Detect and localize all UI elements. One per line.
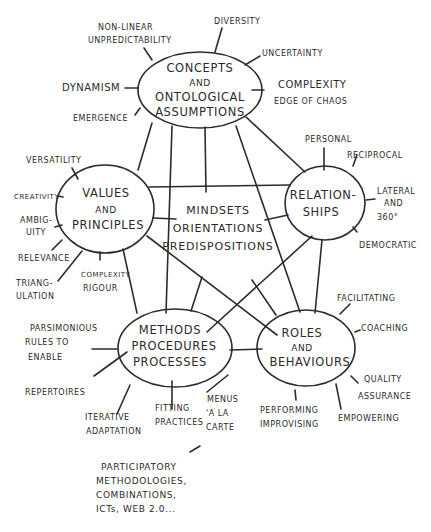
svg-text:ITERATIVE: ITERATIVE — [85, 413, 130, 422]
node-relationships: RELATION- SHIPS PERSONAL RECIPROCAL LATE… — [290, 135, 417, 250]
svg-text:QUALITY: QUALITY — [364, 375, 402, 384]
svg-text:360°: 360° — [377, 213, 398, 222]
svg-text:AND: AND — [291, 343, 313, 353]
svg-text:COMPLEXITY: COMPLEXITY — [278, 79, 347, 90]
edge-relationships-roles — [315, 240, 322, 313]
svg-text:DIVERSITY: DIVERSITY — [214, 17, 260, 26]
svg-text:PERSONAL: PERSONAL — [305, 135, 352, 144]
svg-text:COMBINATIONS,: COMBINATIONS, — [96, 490, 177, 500]
svg-text:MENUS: MENUS — [207, 395, 238, 404]
svg-text:AND: AND — [95, 205, 117, 215]
svg-text:PERFORMING: PERFORMING — [260, 406, 318, 415]
svg-text:COMPLEXITY: COMPLEXITY — [81, 271, 131, 279]
svg-text:VERSATILITY: VERSATILITY — [26, 156, 82, 165]
node-values: VALUES AND PRINCIPLES VERSATILITY CREATI… — [14, 156, 144, 301]
center-label: MINDSETS ORIENTATIONS PREDISPOSITIONS — [162, 204, 273, 253]
svg-text:ENABLE: ENABLE — [28, 353, 63, 362]
svg-text:RULES TO: RULES TO — [25, 338, 69, 347]
participatory-note: PARTICIPATORY METHODOLOGIES, COMBINATION… — [96, 462, 187, 514]
svg-text:FITTING: FITTING — [155, 404, 190, 413]
svg-text:COACHING: COACHING — [361, 324, 408, 333]
edge-center-methods — [191, 277, 202, 311]
svg-text:ONTOLOGICAL: ONTOLOGICAL — [155, 90, 245, 104]
relationships-bubble — [285, 166, 365, 240]
svg-text:PRACTICES: PRACTICES — [155, 418, 203, 427]
svg-text:REPERTOIRES: REPERTOIRES — [25, 388, 85, 397]
svg-text:EDGE OF CHAOS: EDGE OF CHAOS — [274, 97, 347, 106]
svg-text:UNPREDICTABILITY: UNPREDICTABILITY — [88, 36, 172, 45]
svg-text:AND: AND — [384, 199, 403, 208]
svg-text:PARSIMONIOUS: PARSIMONIOUS — [30, 324, 98, 333]
svg-text:UITY: UITY — [26, 228, 46, 237]
svg-text:ICTs, WEB 2.0...: ICTs, WEB 2.0... — [96, 504, 175, 514]
svg-text:AND: AND — [189, 78, 211, 88]
svg-text:ASSURANCE: ASSURANCE — [358, 392, 411, 401]
svg-text:TRIANG-: TRIANG- — [15, 279, 53, 288]
svg-text:FACILITATING: FACILITATING — [337, 294, 396, 303]
edge-values-methods — [123, 249, 137, 313]
svg-text:PROCESSES: PROCESSES — [133, 355, 207, 369]
svg-text:CREATIVITY: CREATIVITY — [14, 193, 59, 201]
svg-text:ORIENTATIONS: ORIENTATIONS — [173, 222, 264, 235]
svg-text:BEHAVIOURS: BEHAVIOURS — [270, 355, 351, 369]
svg-text:DYNAMISM: DYNAMISM — [62, 82, 120, 93]
svg-text:LATERAL: LATERAL — [377, 187, 415, 196]
svg-text:CONCEPTS: CONCEPTS — [166, 61, 233, 75]
svg-text:VALUES: VALUES — [82, 186, 129, 200]
svg-text:ROLES: ROLES — [281, 326, 322, 340]
svg-text:RELATION-: RELATION- — [290, 188, 357, 202]
svg-text:ASSUMPTIONS: ASSUMPTIONS — [155, 105, 245, 119]
svg-text:METHODS: METHODS — [139, 323, 201, 337]
svg-text:PRINCIPLES: PRINCIPLES — [72, 218, 144, 232]
svg-text:ULATION: ULATION — [16, 292, 54, 301]
svg-text:SHIPS: SHIPS — [303, 205, 340, 219]
svg-text:METHODOLOGIES,: METHODOLOGIES, — [96, 476, 187, 486]
svg-text:DEMOCRATIC: DEMOCRATIC — [359, 241, 417, 250]
mindmap-diagram: MINDSETS ORIENTATIONS PREDISPOSITIONS CO… — [0, 0, 431, 532]
svg-text:AMBIG-: AMBIG- — [20, 216, 52, 225]
node-concepts: CONCEPTS AND ONTOLOGICAL ASSUMPTIONS NON… — [62, 17, 347, 123]
edge-relationships-center — [265, 215, 288, 220]
svg-text:MINDSETS: MINDSETS — [186, 204, 249, 217]
svg-text:'A LA: 'A LA — [206, 409, 229, 418]
edge-concepts-center — [205, 127, 206, 192]
edge-values-center — [153, 218, 176, 219]
svg-text:PREDISPOSITIONS: PREDISPOSITIONS — [162, 240, 273, 253]
svg-text:RECIPROCAL: RECIPROCAL — [347, 151, 403, 160]
svg-text:PARTICIPATORY: PARTICIPATORY — [101, 462, 177, 472]
node-methods: METHODS PROCEDURES PROCESSES PARSIMONIOU… — [25, 323, 238, 436]
edge-concepts-values — [138, 123, 152, 170]
svg-text:RIGOUR: RIGOUR — [83, 284, 118, 293]
edge-center-roles — [252, 280, 276, 315]
svg-text:EMERGENCE: EMERGENCE — [73, 114, 128, 123]
svg-text:EMPOWERING: EMPOWERING — [338, 414, 399, 423]
svg-text:CARTE: CARTE — [206, 423, 234, 432]
svg-text:RELEVANCE: RELEVANCE — [18, 254, 70, 263]
edge-concepts-relationships — [246, 117, 305, 172]
svg-text:NON-LINEAR: NON-LINEAR — [98, 23, 153, 32]
svg-text:UNCERTAINTY: UNCERTAINTY — [262, 49, 323, 58]
svg-text:PROCEDURES: PROCEDURES — [131, 339, 216, 353]
svg-text:ADAPTATION: ADAPTATION — [86, 427, 141, 436]
svg-text:IMPROVISING: IMPROVISING — [260, 420, 319, 429]
